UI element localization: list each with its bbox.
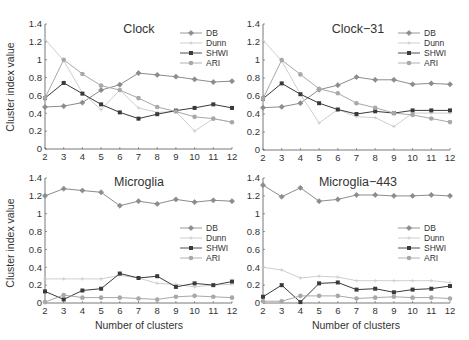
data-point	[192, 294, 197, 299]
x-tick-label: 12	[227, 151, 238, 162]
x-tick-label: 7	[136, 305, 141, 316]
data-point	[43, 300, 48, 305]
ari-marker-icon	[407, 61, 412, 66]
data-point	[80, 100, 85, 105]
x-tick-label: 9	[391, 305, 396, 316]
legend-label: Dunn	[206, 233, 227, 243]
data-point	[298, 72, 303, 77]
chart-title: Microglia	[114, 175, 164, 189]
data-point	[429, 287, 433, 291]
legend-label: DB	[424, 28, 436, 38]
data-point	[192, 77, 197, 82]
data-point	[99, 102, 103, 106]
panel-clock-31: 2345678910111200.20.40.60.811.21.4Clock−…	[247, 18, 456, 163]
data-point	[211, 79, 216, 84]
data-point	[42, 104, 47, 109]
data-point	[61, 57, 66, 62]
data-point	[391, 77, 396, 82]
legend-item-ari: ARI	[398, 253, 438, 263]
data-point	[279, 194, 284, 199]
legend-label: ARI	[424, 253, 438, 263]
data-point	[410, 113, 415, 118]
data-point	[80, 295, 85, 300]
data-point	[174, 109, 179, 114]
data-point	[99, 295, 104, 300]
y-tick-label: 0.6	[247, 90, 260, 101]
series-line	[263, 83, 450, 114]
x-tick-label: 8	[155, 305, 160, 316]
data-point	[211, 283, 215, 287]
data-point	[173, 74, 178, 79]
data-point	[42, 193, 47, 198]
data-point	[211, 116, 216, 121]
x-tick-label: 6	[117, 305, 122, 316]
y-tick-label: 1.2	[247, 190, 260, 201]
x-tick-label: 5	[98, 305, 103, 316]
db-marker-icon	[188, 225, 193, 230]
data-point	[430, 279, 434, 283]
legend-item-dunn: Dunn	[398, 38, 445, 48]
data-point	[118, 295, 123, 300]
x-tick-label: 12	[445, 305, 456, 316]
db-marker-icon	[188, 30, 193, 35]
data-point	[137, 276, 141, 280]
legend: DBDunnSHWIARI	[180, 223, 228, 263]
panel-clock: 2345678910111200.20.40.60.811.21.4ClockD…	[29, 18, 238, 162]
y-tick-label: 0.4	[29, 262, 42, 273]
x-tick-label: 7	[354, 305, 359, 316]
data-point	[411, 288, 415, 292]
legend-item-shwi: SHWI	[398, 243, 446, 253]
legend-label: DB	[424, 223, 436, 233]
y-axis-label-bottom: Cluster index value	[4, 198, 16, 287]
y-tick-label: 1.4	[247, 172, 260, 183]
legend: DBDunnSHWIARI	[398, 223, 446, 263]
data-point	[448, 108, 452, 112]
legend-item-ari: ARI	[180, 253, 220, 263]
series-line	[45, 83, 232, 119]
y-tick-label: 1.4	[29, 18, 42, 29]
y-tick-label: 1	[255, 54, 260, 65]
data-point	[155, 72, 160, 77]
data-point	[81, 277, 85, 281]
x-tick-label: 11	[426, 152, 436, 163]
figure: 2345678910111200.20.40.60.811.21.4ClockD…	[0, 0, 469, 340]
data-point	[354, 101, 359, 106]
data-point	[280, 283, 284, 287]
y-tick-label: 0.2	[247, 126, 260, 137]
legend-item-ari: ARI	[180, 58, 220, 68]
y-tick-label: 0.4	[247, 262, 260, 273]
data-point	[317, 281, 321, 285]
legend-item-ari: ARI	[398, 58, 438, 68]
legend-label: Dunn	[424, 233, 445, 243]
data-point	[193, 281, 197, 285]
data-point	[448, 120, 453, 125]
data-point	[43, 277, 47, 281]
data-point	[355, 112, 359, 116]
x-tick-label: 2	[260, 305, 265, 316]
data-point	[192, 200, 197, 205]
x-tick-label: 8	[155, 151, 160, 162]
data-point	[230, 295, 235, 300]
data-point	[260, 183, 265, 188]
y-tick-label: 0.8	[247, 72, 260, 83]
db-marker-icon	[406, 30, 411, 35]
data-point	[118, 88, 123, 93]
legend-item-db: DB	[180, 28, 218, 38]
series-dunn	[261, 265, 452, 284]
data-point	[136, 296, 141, 301]
y-axis-label-top: Cluster index value	[4, 42, 16, 131]
legend-item-dunn: Dunn	[180, 233, 227, 243]
legend: DBDunnSHWIARI	[398, 28, 446, 68]
data-point	[354, 75, 359, 80]
legend-label: Dunn	[206, 38, 227, 48]
y-tick-label: 0.2	[247, 279, 260, 290]
legend-label: SHWI	[206, 243, 228, 253]
data-point	[43, 96, 48, 101]
x-tick-label: 10	[407, 305, 418, 316]
x-tick-label: 2	[42, 151, 47, 162]
data-point	[118, 110, 122, 114]
data-point	[298, 294, 303, 299]
x-tick-label: 11	[208, 305, 218, 316]
x-tick-label: 10	[189, 305, 200, 316]
data-point	[280, 268, 284, 272]
